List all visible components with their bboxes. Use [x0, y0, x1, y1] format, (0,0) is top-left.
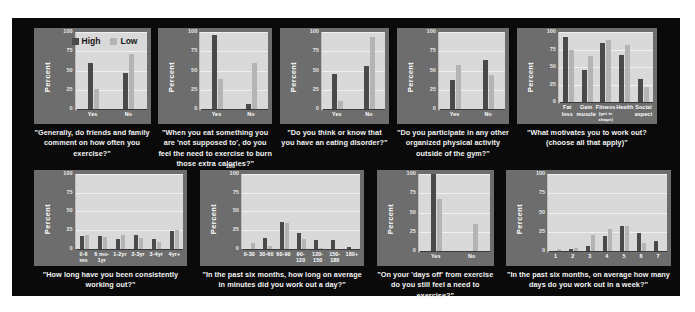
bar-low	[625, 226, 629, 251]
panel-chart-other-physical-activity: Percent1007550250YesNo"Do you participat…	[397, 28, 509, 159]
bar-high	[637, 233, 641, 251]
x-axis: YesNo	[438, 109, 505, 122]
bar-high	[134, 235, 138, 248]
panel-chart-friends-family-comment: Percent1007550250YesNoHighLow"Generally,…	[34, 28, 151, 159]
bar-group	[599, 174, 616, 251]
y-tick-25: 25	[430, 87, 438, 93]
plot-row: 1007550250	[304, 32, 385, 109]
bar-high	[431, 174, 436, 251]
plot-row: 1007550250	[530, 174, 667, 251]
bar-low	[473, 224, 478, 251]
bar-high	[620, 226, 624, 251]
panel-chart-days-off: Percent1007550250YesNo"On your 'days off…	[377, 170, 494, 301]
plot-row: 1007550250	[182, 32, 268, 109]
bar-group	[565, 174, 582, 251]
bar-high	[212, 35, 217, 109]
chart-area-chart-how-long-working-out: Percent10075502500-6mo6 mo-1yr1-2yr2-3yr…	[34, 170, 188, 266]
bar-group	[616, 174, 633, 251]
x-tick-label: Socialaspect	[634, 104, 653, 122]
plot-chart-motivation	[558, 32, 653, 102]
bar-high	[569, 249, 573, 251]
y-tick-50: 50	[313, 68, 321, 74]
x-tick-line-1: Social	[634, 104, 653, 111]
y-axis-label-wrap: Percent	[508, 174, 530, 264]
bar-high	[116, 239, 120, 249]
x-tick-line-1: Fitness	[596, 104, 616, 111]
x-axis: YesNo	[199, 109, 268, 122]
bar-high	[80, 236, 84, 249]
bar-low	[338, 101, 343, 109]
bar-group	[130, 174, 148, 249]
axis-area: 10075502500-6mo6 mo-1yr1-2yr2-3yr3-4yr4y…	[58, 174, 184, 264]
x-tick-line-2: 150	[309, 257, 326, 264]
y-axis-label-wrap: Percent	[379, 174, 401, 264]
bar-low	[175, 230, 179, 249]
caption-chart-other-physical-activity: "Do you participate in any other organiz…	[397, 128, 509, 159]
x-tick-line-1: 150-	[326, 251, 343, 258]
bar-group	[439, 32, 472, 109]
bar-group	[259, 174, 276, 249]
caption-chart-motivation: "What motivates you to work out? (choose…	[517, 128, 657, 149]
x-axis: YesNo	[321, 109, 385, 122]
bar-high	[450, 80, 455, 109]
bar-high	[654, 241, 658, 251]
stray-axis-label: 100	[226, 163, 235, 169]
y-tick-50: 50	[66, 209, 74, 215]
y-tick-100: 100	[547, 29, 558, 35]
y-axis-label-wrap: Percent	[202, 174, 224, 264]
bar-high	[263, 238, 267, 248]
y-tick-labels: 1007550250	[541, 32, 558, 102]
caption-chart-days-per-week: "In the past six months, on average how …	[506, 270, 671, 291]
y-tick-50: 50	[550, 64, 558, 70]
plot-row: 1007550250	[58, 174, 184, 249]
axis-area: 1007550250YesNo	[401, 174, 490, 264]
bar-high	[619, 55, 624, 102]
axis-area: 10075502500-3030-6060-9090-120120-150150…	[224, 174, 361, 264]
bar-group	[310, 174, 327, 249]
bar-low	[268, 246, 272, 248]
bar-low	[252, 63, 257, 109]
x-tick-line-1: Gain	[577, 104, 596, 111]
bar-high	[563, 37, 568, 102]
y-axis-label: Percent	[405, 62, 414, 92]
bar-group	[454, 174, 489, 251]
bar-low	[625, 45, 630, 102]
legend-item-high: High	[72, 36, 101, 46]
bar-high	[314, 240, 318, 248]
y-tick-75: 75	[66, 190, 74, 196]
x-tick-line-1: Fat	[558, 104, 577, 111]
x-tick-line-1: 1-2yr	[111, 251, 129, 258]
y-axis-label-wrap: Percent	[36, 174, 58, 264]
chart-area-chart-friends-family-comment: Percent1007550250YesNoHighLow	[34, 28, 151, 124]
panel-chart-eating-disorder: Percent1007550250YesNo"Do you think or k…	[280, 28, 389, 149]
bar-group	[276, 174, 293, 249]
panel-chart-how-long-working-out: Percent10075502500-6mo6 mo-1yr1-2yr2-3yr…	[34, 170, 188, 291]
x-tick-label: 60-90	[275, 251, 292, 265]
y-tick-labels: 1007550250	[224, 174, 241, 249]
y-tick-75: 75	[430, 49, 438, 55]
y-axis-label-wrap: Percent	[282, 32, 304, 122]
bar-low	[437, 199, 442, 251]
bar-high	[364, 66, 369, 109]
y-tick-75: 75	[191, 49, 199, 55]
x-tick-label: 4	[598, 253, 615, 264]
x-axis: 0-6mo6 mo-1yr1-2yr2-3yr3-4yr4yr+	[75, 249, 184, 265]
bars-container	[559, 32, 653, 102]
bar-group	[419, 174, 454, 251]
y-tick-labels: 1007550250	[304, 32, 321, 109]
bar-low	[85, 235, 89, 248]
bar-group	[634, 32, 653, 102]
x-tick-line-1: Health	[615, 104, 634, 111]
x-tick-label: 5	[615, 253, 632, 264]
y-axis-label: Percent	[288, 62, 297, 92]
x-tick-label: 3	[581, 253, 598, 264]
x-tick-label: No	[111, 111, 147, 122]
plot-chart-other-physical-activity	[438, 32, 505, 109]
caption-chart-not-supposed-to-eat: "When you eat something you are 'not sup…	[158, 128, 272, 169]
x-tick-label: No	[353, 111, 385, 122]
y-tick-labels: 1007550250	[421, 32, 438, 109]
legend-swatch-icon	[110, 38, 117, 45]
bar-group	[147, 174, 165, 249]
bar-low	[157, 242, 161, 249]
x-tick-line-2: muscle	[577, 111, 596, 118]
